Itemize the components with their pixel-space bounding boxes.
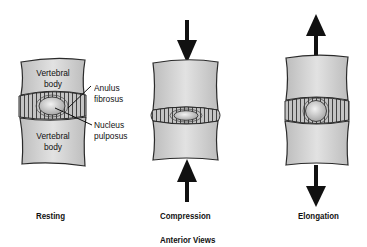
anulus-fibrosus-label: Anulus fibrosus [94,82,123,104]
lower-vertebral-body [285,121,349,165]
figure-caption: Anterior Views [160,235,215,245]
arrow-up-icon [177,159,197,182]
resting-label: Resting [36,211,65,221]
compression-panel [151,20,220,202]
upper-vertebral-body [286,55,348,100]
lower-vertebral-body [153,121,218,160]
nucleus-pulposus [39,97,65,115]
elongation-label: Elongation [298,211,339,221]
flattened-nucleus [174,111,198,121]
rounded-nucleus [306,101,327,122]
upper-vertebral-body-label: Vertebral body [32,67,74,89]
nucleus-pulposus-label: Nucleus pulposus [94,119,127,141]
lower-vertebral-body-label: Vertebral body [32,130,74,152]
upper-vertebral-body [153,60,218,110]
compression-label: Compression [160,211,211,221]
elongation-panel [285,14,349,207]
arrow-up-icon [306,14,326,36]
arrow-down-icon [306,186,326,207]
diagram-canvas [0,0,367,247]
